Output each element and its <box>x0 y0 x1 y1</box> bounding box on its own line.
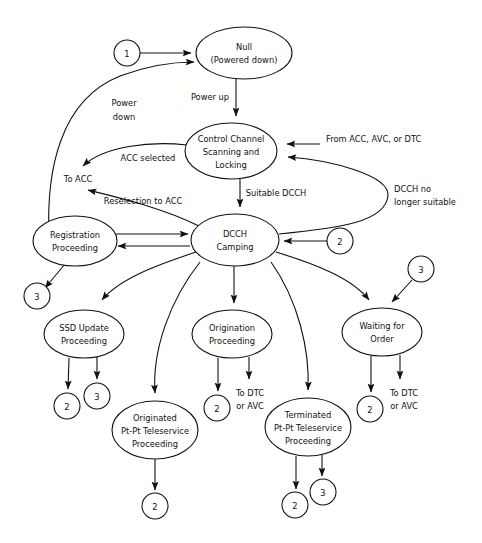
connector-label-2-from-ssd-update: 2 <box>64 402 69 412</box>
state-label-control-channel-line1: Control Channel <box>198 134 265 144</box>
connector-3-to-waiting-order[interactable]: 3 <box>408 256 434 282</box>
state-node-ssd-update-proceeding[interactable]: SSD Update Proceeding <box>44 310 124 358</box>
state-label-originated-ptp-line2: Pt-Pt Teleservice <box>121 426 189 436</box>
state-label-originated-ptp-line3: Proceeding <box>132 439 178 449</box>
state-ellipse-ssd-update-proceeding[interactable] <box>44 310 124 358</box>
edge-label-to-acc: To ACC <box>63 174 93 184</box>
edge-label-from-acc-avc-dtc: From ACC, AVC, or DTC <box>326 134 422 144</box>
connector-2-from-waiting-order[interactable]: 2 <box>357 396 383 422</box>
connector-label-1-to-null: 1 <box>124 49 129 59</box>
edge-label-dcch-no-longer-suitable-line1: DCCH no <box>394 184 431 194</box>
connector-2-from-terminated-ptp[interactable]: 2 <box>282 492 308 518</box>
connector-3-from-terminated-ptp[interactable]: 3 <box>310 479 336 505</box>
state-ellipse-dcch-camping[interactable] <box>191 214 279 266</box>
connector-3-from-registration[interactable]: 3 <box>24 283 50 309</box>
state-label-terminated-ptp-line1: Terminated <box>284 410 331 420</box>
state-node-control-channel[interactable]: Control Channel Scanning and Locking <box>185 123 277 179</box>
state-label-control-channel-line2: Scanning and <box>203 147 260 157</box>
edge-dcch-to-terminated-ptp <box>271 262 308 390</box>
state-label-terminated-ptp-line2: Pt-Pt Teleservice <box>274 423 342 433</box>
state-ellipse-origination-proceeding[interactable] <box>192 310 272 358</box>
edge-dcch-to-ssd-update <box>102 252 196 300</box>
connector-label-3-to-waiting-order: 3 <box>418 265 423 275</box>
connector-3-from-ssd-update[interactable]: 3 <box>84 383 110 409</box>
connector-label-3-from-registration: 3 <box>34 292 39 302</box>
connector-2-from-originated-ptp[interactable]: 2 <box>142 493 168 519</box>
edge-power-down-to-null <box>49 62 194 238</box>
edge-label-power-up: Power up <box>191 92 229 102</box>
edge-layer <box>45 53 412 490</box>
connector-2-to-dcch[interactable]: 2 <box>327 228 353 254</box>
connector-label-3-from-terminated-ptp: 3 <box>320 488 325 498</box>
state-node-null[interactable]: Null (Powered down) <box>196 27 292 79</box>
state-label-registration-line1: Registration <box>50 230 100 240</box>
state-label-ssd-update-line2: Proceeding <box>61 336 107 346</box>
state-node-dcch-camping[interactable]: DCCH Camping <box>191 214 279 266</box>
edge-label-to-dtc-or-avc-waiting-line1: To DTC <box>389 388 418 398</box>
state-node-terminated-ptp-teleservice[interactable]: Terminated Pt-Pt Teleservice Proceeding <box>265 398 351 456</box>
edge-label-reselection-to-acc: Reselection to ACC <box>104 196 183 206</box>
state-label-origination-line1: Origination <box>209 323 255 333</box>
edge-label-power-down-line1: Power <box>111 98 137 108</box>
connector-label-2-from-waiting-order: 2 <box>367 405 372 415</box>
edge-label-suitable-dcch: Suitable DCCH <box>246 188 307 198</box>
connector-1-to-null[interactable]: 1 <box>114 40 140 66</box>
state-label-originated-ptp-line1: Originated <box>133 413 177 423</box>
connector-label-3-from-ssd-update: 3 <box>94 392 99 402</box>
connector-label-2-from-originated-ptp: 2 <box>152 502 157 512</box>
edge-label-to-dtc-or-avc-origination-line2: or AVC <box>236 401 264 411</box>
state-node-registration-proceeding[interactable]: Registration Proceeding <box>33 216 117 266</box>
connector-label-2-from-terminated-ptp: 2 <box>292 501 297 511</box>
state-transition-diagram: Null (Powered down) Control Channel Scan… <box>0 0 482 543</box>
edge-label-to-dtc-or-avc-origination-line1: To DTC <box>235 388 264 398</box>
state-label-control-channel-line3: Locking <box>215 160 247 170</box>
edge-dcch-to-waiting-order <box>276 252 369 300</box>
edge-connector3-to-waiting-order <box>392 280 412 302</box>
edge-ssd-update-to-connector2 <box>68 358 69 389</box>
state-ellipse-null[interactable] <box>196 27 292 79</box>
state-ellipse-waiting-for-order[interactable] <box>342 308 422 356</box>
state-node-originated-ptp-teleservice[interactable]: Originated Pt-Pt Teleservice Proceeding <box>112 401 198 459</box>
state-label-waiting-order-line1: Waiting for <box>359 321 405 331</box>
edge-label-dcch-no-longer-suitable-line2: longer suitable <box>394 197 456 207</box>
connector-label-2-from-origination: 2 <box>214 404 219 414</box>
edge-label-to-dtc-or-avc-waiting-line2: or AVC <box>390 401 418 411</box>
edge-label-power-down-line2: down <box>113 112 135 122</box>
state-label-terminated-ptp-line3: Proceeding <box>285 436 331 446</box>
state-label-null-line2: (Powered down) <box>211 55 278 65</box>
connector-layer: 1 2 3 3 2 3 <box>24 40 434 519</box>
state-diagram-canvas: Null (Powered down) Control Channel Scan… <box>0 0 482 543</box>
state-label-waiting-order-line2: Order <box>370 334 394 344</box>
edge-registration-to-connector3 <box>45 264 65 288</box>
edge-label-acc-selected: ACC selected <box>121 153 176 163</box>
state-node-origination-proceeding[interactable]: Origination Proceeding <box>192 310 272 358</box>
state-label-registration-line2: Proceeding <box>52 243 98 253</box>
state-node-waiting-for-order[interactable]: Waiting for Order <box>342 308 422 356</box>
state-label-origination-line2: Proceeding <box>209 336 255 346</box>
state-label-null-line1: Null <box>236 42 252 52</box>
state-ellipse-registration-proceeding[interactable] <box>33 216 117 266</box>
state-label-ssd-update-line1: SSD Update <box>59 323 109 333</box>
connector-2-from-ssd-update[interactable]: 2 <box>54 393 80 419</box>
state-label-dcch-camping-line2: Camping <box>216 242 253 252</box>
connector-2-from-origination[interactable]: 2 <box>204 395 230 421</box>
connector-label-2-to-dcch: 2 <box>337 237 342 247</box>
state-label-dcch-camping-line1: DCCH <box>223 229 247 239</box>
